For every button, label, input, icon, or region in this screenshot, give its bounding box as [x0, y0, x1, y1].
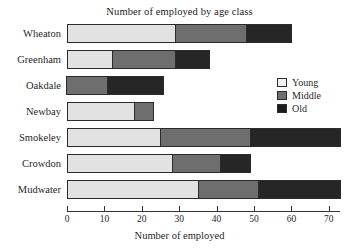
- bar-segment-middle: [66, 76, 108, 95]
- legend-swatch-old-icon: [277, 104, 287, 113]
- bar-segment-middle: [134, 102, 154, 121]
- bar-segment-middle: [160, 128, 251, 147]
- legend-item-young: Young: [277, 76, 321, 89]
- stacked-bar: [67, 128, 341, 147]
- x-tick: [329, 206, 330, 212]
- bar-segment-young: [67, 102, 135, 121]
- x-tick-label: 60: [287, 214, 297, 224]
- category-label: Newbay: [26, 102, 61, 121]
- stacked-bar-chart: Number of employed by age class WheatonG…: [0, 0, 359, 252]
- x-tick-label: 70: [324, 214, 334, 224]
- x-tick: [104, 206, 105, 212]
- category-label: Crowdon: [22, 154, 61, 173]
- bar-segment-middle: [112, 50, 177, 69]
- bar-segment-young: [67, 180, 199, 199]
- legend-swatch-middle-icon: [277, 91, 287, 100]
- bar-segment-middle: [172, 154, 222, 173]
- bar-segment-middle: [175, 24, 247, 43]
- bar-row: Crowdon: [67, 154, 340, 173]
- x-tick: [179, 206, 180, 212]
- x-tick-label: 10: [100, 214, 110, 224]
- category-label: Oakdale: [26, 76, 61, 95]
- chart-title: Number of employed by age class: [0, 6, 359, 17]
- stacked-bar: [67, 102, 154, 121]
- chart-legend: YoungMiddleOld: [277, 76, 321, 115]
- legend-item-old: Old: [277, 102, 321, 115]
- bar-segment-old: [246, 24, 292, 43]
- bar-segment-young: [67, 50, 113, 69]
- x-axis-line: [67, 211, 340, 212]
- bar-segment-old: [250, 128, 341, 147]
- legend-label: Young: [292, 76, 318, 89]
- x-tick-label: 50: [249, 214, 259, 224]
- x-tick: [254, 206, 255, 212]
- x-tick: [142, 206, 143, 212]
- category-label: Smokeley: [19, 128, 61, 147]
- bar-row: Smokeley: [67, 128, 340, 147]
- stacked-bar: [67, 24, 292, 43]
- bar-segment-young: [67, 154, 173, 173]
- x-tick-label: 20: [137, 214, 147, 224]
- bar-row: Wheaton: [67, 24, 340, 43]
- bar-row: Greenham: [67, 50, 340, 69]
- bar-segment-old: [258, 180, 341, 199]
- bar-segment-old: [220, 154, 251, 173]
- bar-segment-old: [107, 76, 164, 95]
- bar-segment-old: [175, 50, 210, 69]
- bar-segment-young: [67, 24, 176, 43]
- stacked-bar: [67, 50, 210, 69]
- legend-label: Middle: [292, 89, 321, 102]
- bar-segment-middle: [198, 180, 259, 199]
- bar-row: Mudwater: [67, 180, 340, 199]
- category-label: Wheaton: [23, 24, 61, 43]
- x-tick-label: 40: [212, 214, 222, 224]
- category-label: Mudwater: [18, 180, 61, 199]
- stacked-bar: [67, 154, 251, 173]
- stacked-bar: [67, 180, 341, 199]
- legend-label: Old: [292, 102, 307, 115]
- x-tick: [67, 206, 68, 212]
- x-axis-title: Number of employed: [0, 230, 359, 241]
- bar-segment-young: [67, 128, 161, 147]
- legend-swatch-young-icon: [277, 78, 287, 87]
- category-label: Greenham: [17, 50, 61, 69]
- x-tick: [291, 206, 292, 212]
- stacked-bar: [67, 76, 164, 95]
- x-tick-label: 0: [65, 214, 70, 224]
- legend-item-middle: Middle: [277, 89, 321, 102]
- x-tick: [217, 206, 218, 212]
- x-tick-label: 30: [174, 214, 184, 224]
